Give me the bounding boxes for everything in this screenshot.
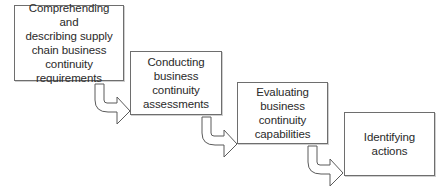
curved-arrow-down-right-icon <box>200 115 240 159</box>
step-box-3: Evaluating business continuity capabilit… <box>237 82 328 144</box>
step-label-3: Evaluating business continuity capabilit… <box>255 85 311 141</box>
step-label-1: Comprehending and describing supply chai… <box>18 1 120 85</box>
curved-arrow-down-right-icon <box>93 82 133 126</box>
step-label-2: Conducting business continuity assessmen… <box>143 55 209 111</box>
step-box-1: Comprehending and describing supply chai… <box>14 5 124 81</box>
curved-arrow-down-right-icon <box>306 144 346 188</box>
step-box-2: Conducting business continuity assessmen… <box>130 51 222 115</box>
step-box-4: Identifying actions <box>344 112 435 176</box>
step-label-4: Identifying actions <box>364 130 415 158</box>
